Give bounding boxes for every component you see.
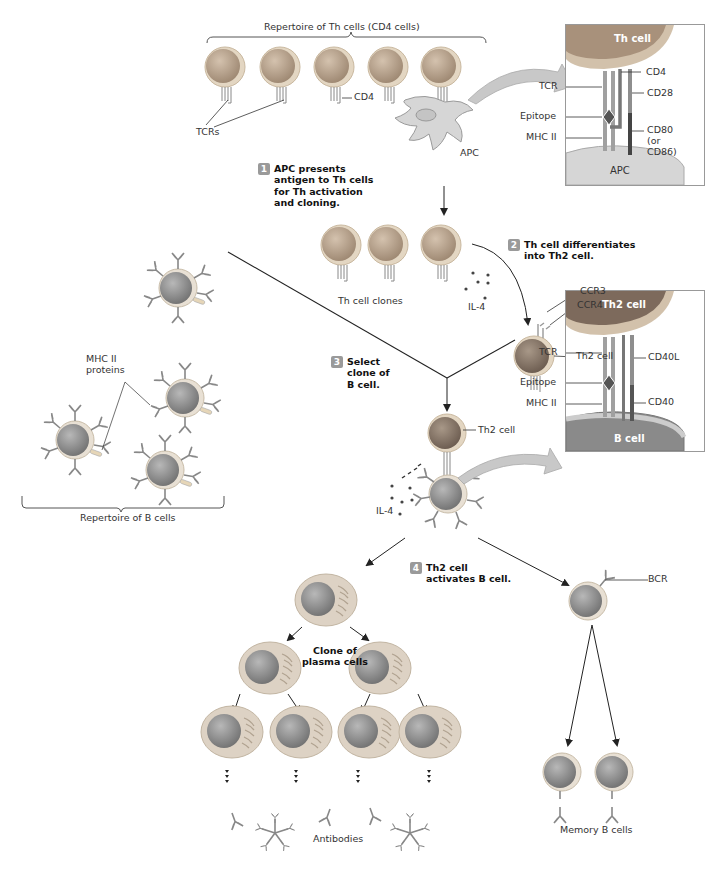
inset-th-cell-label: Th cell xyxy=(614,33,651,44)
step-3-text: Select clone of B cell. xyxy=(347,356,390,390)
th-repertoire-brace xyxy=(207,32,486,43)
inset1-epitope-label: Epitope xyxy=(520,111,556,122)
inset-apc-label: APC xyxy=(610,165,630,177)
step-3-badge: 3 xyxy=(331,356,343,368)
step-3: 3Select clone of B cell. xyxy=(331,356,390,390)
il4-label-lower: IL-4 xyxy=(376,506,393,517)
step-1-text: APC presents antigen to Th cells for Th … xyxy=(274,163,373,209)
inset-th2-b-synapse: Th2 cell B cell CD40L CD40 xyxy=(565,290,705,452)
th-repertoire-label: Repertoire of Th cells (CD4 cells) xyxy=(264,22,420,33)
inset-b-cell-label: B cell xyxy=(614,433,645,444)
step-2: 2Th cell differentiates into Th2 cell. xyxy=(508,239,635,262)
ccr3-label: CCR3 xyxy=(580,286,606,297)
step-4-badge: 4 xyxy=(410,562,422,574)
cd4-label: CD4 xyxy=(354,92,374,103)
th-clones-label: Th cell clones xyxy=(338,296,403,307)
inset2-tcr-label: TCR xyxy=(539,347,557,358)
inset2-mhc2-label: MHC II xyxy=(526,398,557,409)
step-1-badge: 1 xyxy=(258,163,270,175)
inset2-epitope-label: Epitope xyxy=(520,377,556,388)
th2-cell-label-lower: Th2 cell xyxy=(478,425,515,436)
mhc2-proteins-label: MHC II proteins xyxy=(86,354,125,376)
il4-label-top: IL-4 xyxy=(468,302,485,313)
b-repertoire-label: Repertoire of B cells xyxy=(80,513,176,524)
inset-th-apc-synapse: Th cell APC CD4 CD28 CD80 (or CD86) xyxy=(565,24,705,186)
bcr-label: BCR xyxy=(648,574,668,585)
step-2-badge: 2 xyxy=(508,239,520,251)
step-4: 4Th2 cell activates B cell. xyxy=(410,562,511,585)
ccr4-label: CCR4 xyxy=(577,300,603,311)
inset-th2-cell-label: Th2 cell xyxy=(602,299,646,310)
step-4-text: Th2 cell activates B cell. xyxy=(426,562,511,585)
inset-cd40-label: CD40 xyxy=(648,397,674,408)
th2-cell-label-mid: Th2 cell xyxy=(576,351,613,362)
inset-th2-b-drawing xyxy=(566,291,704,451)
inset1-mhc2-label: MHC II xyxy=(526,132,557,143)
inset-cd40l-label: CD40L xyxy=(648,352,679,363)
antibodies-label: Antibodies xyxy=(313,834,363,845)
memory-b-cells-label: Memory B cells xyxy=(560,825,633,836)
inset1-tcr-label: TCR xyxy=(539,81,557,92)
step-2-text: Th cell differentiates into Th2 cell. xyxy=(524,239,635,262)
figure-stage: Th cell APC CD4 CD28 CD80 (or CD86) TCR … xyxy=(0,0,717,880)
inset-cd28-label: CD28 xyxy=(647,88,673,99)
plasma-clone-label: Clone of plasma cells xyxy=(302,646,368,668)
inset-cd80-label: CD80 (or CD86) xyxy=(647,125,677,158)
apc-label: APC xyxy=(460,148,479,159)
tcrs-label: TCRs xyxy=(196,127,219,138)
inset-th-apc-drawing xyxy=(566,25,704,185)
inset-cd4-label: CD4 xyxy=(646,67,666,78)
step-1: 1APC presents antigen to Th cells for Th… xyxy=(258,163,373,209)
